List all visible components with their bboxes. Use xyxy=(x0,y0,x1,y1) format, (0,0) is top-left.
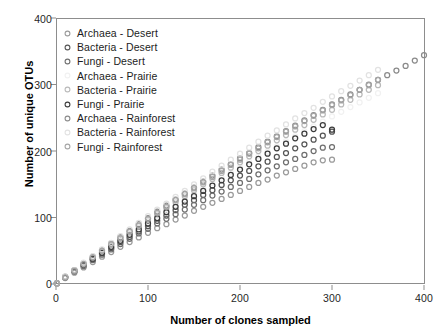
data-point xyxy=(385,73,390,78)
data-point xyxy=(366,95,371,100)
data-point xyxy=(274,164,279,169)
data-point xyxy=(366,73,371,78)
data-point xyxy=(228,178,233,183)
data-point xyxy=(311,160,316,165)
data-point xyxy=(265,159,270,164)
data-point xyxy=(330,145,335,150)
data-point xyxy=(274,173,279,178)
data-point xyxy=(238,173,243,178)
data-point xyxy=(320,158,325,163)
data-point xyxy=(376,83,381,88)
data-point xyxy=(164,222,169,227)
data-point xyxy=(357,100,362,105)
data-point xyxy=(330,94,335,99)
legend-item-label: Fungi - Prairie xyxy=(77,98,144,110)
data-point xyxy=(256,180,261,185)
data-point xyxy=(256,164,261,169)
data-point xyxy=(54,281,59,286)
data-point xyxy=(256,172,261,177)
data-point xyxy=(302,152,307,157)
legend-item-label: Fungi - Rainforest xyxy=(77,141,162,153)
data-point xyxy=(376,67,381,72)
data-point xyxy=(293,166,298,171)
data-point xyxy=(247,176,252,181)
legend-item[interactable]: Fungi - Desert xyxy=(62,54,175,68)
data-point xyxy=(376,91,381,96)
legend-item[interactable]: Archaea - Desert xyxy=(62,26,175,40)
legend-marker-circle-icon xyxy=(62,84,73,95)
data-point xyxy=(422,53,427,58)
data-point xyxy=(284,170,289,175)
data-point xyxy=(228,192,233,197)
data-point xyxy=(284,160,289,165)
legend-item-label: Bacteria - Rainforest xyxy=(77,126,175,138)
data-point xyxy=(210,193,215,198)
y-axis-title: Number of unique OTUs xyxy=(23,44,35,204)
data-point xyxy=(376,77,381,82)
data-point xyxy=(284,151,289,156)
legend-item[interactable]: Bacteria - Rainforest xyxy=(62,125,175,139)
data-point xyxy=(311,137,316,142)
data-point xyxy=(339,89,344,94)
data-point xyxy=(164,216,169,221)
legend-item-label: Fungi - Desert xyxy=(77,55,145,67)
legend-marker-circle-icon xyxy=(62,127,73,138)
legend-item[interactable]: Bacteria - Prairie xyxy=(62,83,175,97)
data-point xyxy=(210,200,215,205)
data-point xyxy=(192,208,197,213)
data-point xyxy=(201,198,206,203)
data-point xyxy=(293,146,298,151)
data-point xyxy=(265,177,270,182)
legend-item-label: Bacteria - Desert xyxy=(77,41,157,53)
legend-marker-circle-icon xyxy=(62,56,73,67)
x-tick-label-100: 100 xyxy=(133,292,163,304)
data-point xyxy=(302,111,307,116)
data-point xyxy=(173,217,178,222)
data-point xyxy=(219,196,224,201)
y-tick-label-0: 0 xyxy=(26,278,52,290)
legend-marker-circle-icon xyxy=(62,99,73,110)
data-point xyxy=(320,99,325,104)
data-point xyxy=(274,154,279,159)
legend-item-label: Archaea - Desert xyxy=(77,27,158,39)
data-point xyxy=(348,83,353,88)
data-point xyxy=(238,188,243,193)
legend-marker-circle-icon xyxy=(62,28,73,39)
data-point xyxy=(320,123,325,128)
legend-item-label: Archaea - Rainforest xyxy=(77,112,175,124)
x-tick-label-0: 0 xyxy=(41,292,71,304)
data-point xyxy=(339,109,344,114)
legend-item[interactable]: Fungi - Rainforest xyxy=(62,140,175,154)
data-point xyxy=(219,189,224,194)
rarefaction-scatter-figure: 400 300 200 100 0 0 100 200 300 400 Numb… xyxy=(0,0,443,336)
data-point xyxy=(394,68,399,73)
data-point xyxy=(284,122,289,127)
x-tick-label-200: 200 xyxy=(225,292,255,304)
data-point xyxy=(201,204,206,209)
y-tick-label-100: 100 xyxy=(26,212,52,224)
data-point xyxy=(311,149,316,154)
x-tick-label-400: 400 xyxy=(409,292,439,304)
legend-marker-circle-icon xyxy=(62,141,73,152)
chart-legend: Archaea - DesertBacteria - DesertFungi -… xyxy=(62,26,175,154)
legend-item[interactable]: Archaea - Prairie xyxy=(62,69,175,83)
legend-marker-circle-icon xyxy=(62,70,73,81)
legend-item[interactable]: Archaea - Rainforest xyxy=(62,111,175,125)
data-point xyxy=(357,78,362,83)
data-point xyxy=(247,168,252,173)
data-point xyxy=(320,145,325,150)
legend-marker-circle-icon xyxy=(62,113,73,124)
data-point xyxy=(293,156,298,161)
legend-item[interactable]: Fungi - Prairie xyxy=(62,97,175,111)
data-point xyxy=(256,139,261,144)
data-point xyxy=(182,213,187,218)
data-point xyxy=(238,180,243,185)
data-point xyxy=(403,63,408,68)
data-point xyxy=(247,184,252,189)
data-point xyxy=(228,184,233,189)
data-point xyxy=(330,114,335,119)
data-point xyxy=(412,58,417,63)
x-tick-label-300: 300 xyxy=(317,292,347,304)
legend-item[interactable]: Bacteria - Desert xyxy=(62,40,175,54)
scatter-series xyxy=(54,157,334,286)
